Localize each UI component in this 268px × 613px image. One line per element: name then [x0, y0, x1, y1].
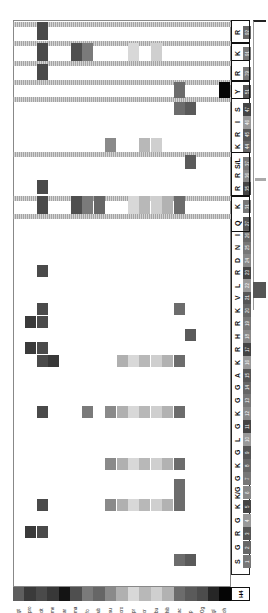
residue-16: K16 — [232, 356, 251, 369]
legend-label-ac: ac — [174, 601, 185, 613]
residue-number: 14 — [243, 381, 251, 394]
residue-number: 27 — [243, 217, 251, 230]
residue-aa: K — [233, 200, 242, 213]
residue-number: 20 — [243, 304, 251, 317]
heatmap-cell-cr-8 — [139, 458, 150, 470]
heatmap-cell-cro-8 — [117, 458, 128, 470]
residue-21: V21 — [232, 291, 251, 304]
residue-aa: R — [233, 527, 242, 540]
legend-label-ma: ma — [70, 601, 81, 613]
heatmap-cell-su-44 — [105, 138, 116, 152]
region-band — [13, 97, 231, 102]
residue-number: 10 — [243, 433, 251, 446]
heatmap-cell-pro-3 — [25, 526, 36, 538]
residue-aa: Y — [233, 85, 242, 98]
legend-label-hib: hib — [162, 601, 173, 613]
legend-label-pr: pr — [128, 601, 139, 613]
residue-4: G4 — [232, 514, 251, 527]
residue-aa: G — [233, 472, 242, 485]
residue-7: G7 — [232, 472, 251, 485]
modification-legend — [13, 587, 231, 601]
residue-number: 2 — [243, 541, 251, 554]
residue-14: G14 — [232, 381, 251, 394]
heatmap-cell-hib-31 — [162, 196, 173, 214]
heatmap-cell-ac-20 — [174, 303, 185, 315]
residue-45: R45 — [232, 128, 251, 141]
heatmap-cell-ac-51 — [174, 82, 185, 98]
residue-aa: D — [233, 254, 242, 267]
region-band — [13, 214, 231, 219]
residue-aa: L — [233, 279, 242, 292]
residue-number: 21 — [243, 291, 251, 304]
residue-aa: S/L — [233, 157, 242, 170]
legend-label-su: su — [105, 601, 116, 613]
heatmap-cell-ub-31 — [94, 196, 105, 214]
heatmap-cell-pr-12 — [128, 406, 139, 418]
residue-number: 23 — [243, 266, 251, 279]
residue-aa: R — [233, 26, 242, 39]
legend-swatch-ma — [70, 587, 81, 601]
residue-number: 22 — [243, 279, 251, 292]
residue-number: 1 — [243, 555, 251, 568]
residue-23: R23 — [232, 266, 251, 279]
residue-aa: K — [233, 47, 242, 60]
heatmap-cell-bu-44 — [151, 138, 162, 152]
residue-number: 26 — [243, 229, 251, 242]
heatmap-cell-pr-31 — [128, 196, 139, 214]
residue-aa: G — [233, 514, 242, 527]
residue-aa: K — [233, 356, 242, 369]
residue-number: 25 — [243, 241, 251, 254]
legend-label-bu: bu — [151, 601, 162, 613]
residue-12: K12 — [232, 407, 251, 420]
residue-18: H18 — [232, 330, 251, 343]
residue-aa: K — [233, 140, 242, 153]
residue-37: S/L37 — [232, 157, 251, 170]
heatmap-cell-cit-31 — [37, 196, 48, 214]
heatmap-cell-bu-31 — [151, 196, 162, 214]
residue-aa: R — [233, 266, 242, 279]
h4-ptm-heatmap: S1G2R3G4K5K/G6G7K8G9L10G11K12G13G14A15K1… — [0, 0, 268, 613]
heatmap-cell-fo-12 — [82, 406, 93, 418]
residue-number: 35 — [243, 182, 251, 195]
residue-aa: G — [233, 420, 242, 433]
residue-35: R35 — [232, 182, 251, 195]
residue-aa: K — [233, 304, 242, 317]
residue-aa: G — [233, 446, 242, 459]
residue-aa: R — [233, 317, 242, 330]
heatmap-cell-fo-91 — [82, 43, 93, 61]
legend-swatch-gl — [208, 587, 219, 601]
legend-label-me: me — [47, 601, 58, 613]
residue-aa: R — [233, 182, 242, 195]
residue-number: 31 — [243, 200, 251, 213]
residue-number: 3 — [243, 527, 251, 540]
heatmap-cell-oh-51 — [219, 82, 230, 98]
residue-number: 13 — [243, 394, 251, 407]
residue-17: R17 — [232, 343, 251, 356]
legend-swatch-me — [47, 587, 58, 601]
residue-number: 24 — [243, 254, 251, 267]
residue-aa: H — [233, 330, 242, 343]
heatmap-cell-ac-8 — [174, 458, 185, 470]
residue-22: L22 — [232, 279, 251, 292]
residue-27: Q27 — [232, 217, 251, 230]
heatmap-cell-hib-12 — [162, 406, 173, 418]
residue-number: 5 — [243, 500, 251, 513]
residue-aa: G — [233, 381, 242, 394]
heatmap-cell-pr-8 — [128, 458, 139, 470]
residue-number: 4 — [243, 514, 251, 527]
residue-aa: S — [233, 103, 242, 116]
residue-8: K8 — [232, 459, 251, 472]
heatmap-cell-cr-5 — [139, 499, 150, 511]
heatmap-cell-bu-8 — [151, 458, 162, 470]
residue-3: R3 — [232, 527, 251, 540]
legend-label-cro: cro — [116, 601, 127, 613]
heatmap-cell-cit-16 — [37, 355, 48, 367]
residue-aa: A — [233, 369, 242, 382]
residue-26: I26 — [232, 229, 251, 242]
heatmap-cell-pro-19 — [25, 316, 36, 328]
residue-aa: K/G — [233, 486, 242, 499]
legend-label-ub: ub — [93, 601, 104, 613]
residue-44: K44 — [232, 140, 251, 153]
residue-46: I46 — [232, 116, 251, 129]
residue-aa: L — [233, 433, 242, 446]
